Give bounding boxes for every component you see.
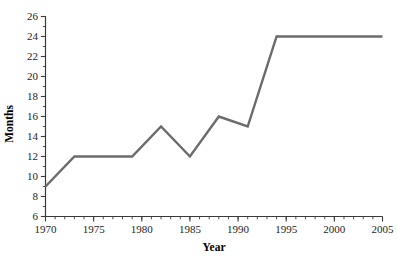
x-axis-title: Year — [203, 241, 226, 253]
y-axis-tick-label: 22 — [27, 50, 38, 62]
data-series-group — [46, 37, 383, 187]
x-axis-tick-label: 1990 — [227, 223, 250, 235]
y-axis-tick-label: 24 — [27, 30, 39, 42]
x-axis: 19701975198019851990199520002005 — [35, 217, 395, 236]
data-line-months — [46, 37, 383, 187]
y-axis-tick-label: 6 — [33, 210, 39, 222]
x-axis-tick-label: 1970 — [35, 223, 58, 235]
y-axis-tick-label: 16 — [27, 110, 39, 122]
x-axis-tick-label: 1995 — [275, 223, 298, 235]
y-axis: 68101214161820222426 — [27, 10, 46, 222]
y-axis-title: Months — [3, 105, 15, 143]
axis-spines — [46, 17, 383, 217]
y-axis-tick-label: 14 — [27, 130, 39, 142]
chart-canvas: 68101214161820222426 1970197519801985199… — [0, 0, 397, 258]
y-axis-tick-label: 18 — [27, 90, 39, 102]
y-axis-tick-label: 26 — [27, 10, 39, 22]
y-axis-tick-label: 10 — [27, 170, 39, 182]
x-axis-tick-label: 1975 — [83, 223, 106, 235]
x-axis-tick-label: 2005 — [372, 223, 395, 235]
y-axis-tick-label: 12 — [27, 150, 38, 162]
x-axis-tick-label: 1980 — [131, 223, 154, 235]
x-axis-tick-label: 1985 — [179, 223, 202, 235]
line-chart-figure: 68101214161820222426 1970197519801985199… — [0, 0, 397, 258]
y-axis-tick-label: 8 — [33, 190, 39, 202]
x-axis-tick-label: 2000 — [323, 223, 346, 235]
y-axis-tick-label: 20 — [27, 70, 39, 82]
